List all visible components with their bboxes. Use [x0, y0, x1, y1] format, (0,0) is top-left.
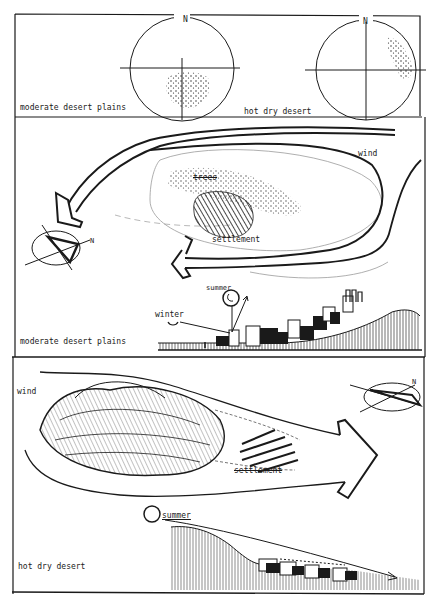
winter-label: winter: [155, 311, 184, 319]
wind-label: wind: [358, 150, 377, 158]
summer-label: summer: [206, 285, 231, 292]
compass-icon: [25, 225, 90, 270]
summer-label: summer: [162, 512, 191, 520]
region-label-moderate: moderate desert plains: [20, 104, 126, 112]
settlement-label: settlement: [234, 467, 282, 475]
trees-label: trees: [193, 174, 217, 182]
settlement-label: settlement: [212, 236, 260, 244]
hot-panel: [12, 357, 424, 594]
hill-dome: [40, 382, 224, 476]
region-label-hot: hot dry desert: [244, 108, 311, 116]
compass-north-label: N: [363, 18, 368, 26]
section-moderate: [158, 290, 422, 350]
compass-north-label: N: [183, 16, 188, 24]
region-label-hot: hot dry desert: [18, 563, 85, 571]
sun-path-chart-moderate: [120, 12, 240, 121]
compass-north-label: N: [412, 379, 416, 386]
diagram-canvas: [0, 0, 437, 606]
compass-icon: [350, 383, 420, 412]
sun-path-chart-hot: [305, 14, 426, 120]
compass-north-label: N: [90, 238, 94, 245]
region-label-moderate: moderate desert plains: [20, 338, 126, 346]
wind-label: wind: [17, 388, 36, 396]
